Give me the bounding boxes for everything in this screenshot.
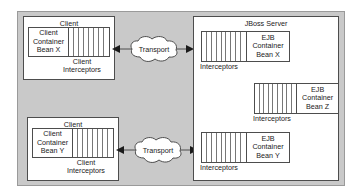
- client-interceptor-stripes-x: [69, 28, 109, 56]
- server-bean-z-line-3: Bean Z: [306, 103, 329, 111]
- server-interceptor-stripes-y: [202, 133, 246, 162]
- server-bean-y-line-3: Bean Y: [256, 152, 279, 160]
- client-bean-y-line-3: Bean Y: [41, 147, 64, 155]
- server-stack-bean-z: EJB Container Bean Z: [254, 83, 339, 114]
- client-bean-x-line-3: Bean X: [37, 46, 61, 54]
- client-interceptors-label-y-line-2: Interceptors: [57, 167, 115, 175]
- client-container-bean-y: Client Container Bean Y: [33, 129, 73, 157]
- client-interceptors-label-y: Client Interceptors: [57, 159, 115, 176]
- server-interceptor-stripes-x: [202, 32, 246, 61]
- transport-cloud-x: Transport: [128, 35, 180, 63]
- server-stack-bean-y: EJB Container Bean Y: [201, 132, 290, 163]
- arrowhead-left-x: [112, 45, 120, 53]
- server-interceptors-label-x: Interceptors: [200, 63, 238, 71]
- diagram-canvas: Client Client Container Bean X Client In…: [0, 0, 356, 196]
- client-stack-x: Client Container Bean X: [28, 27, 110, 57]
- client-interceptor-stripes-y: [73, 129, 113, 157]
- client-interceptors-label-x-line-2: Interceptors: [53, 66, 111, 74]
- client-interceptors-label-x: Client Interceptors: [53, 58, 111, 75]
- arrowhead-left-y: [116, 146, 124, 154]
- server-container-bean-z: EJB Container Bean Z: [296, 84, 338, 113]
- server-bean-x-line-3: Bean X: [256, 51, 280, 59]
- client-container-bean-x: Client Container Bean X: [29, 28, 69, 56]
- server-interceptor-stripes-z: [255, 84, 296, 113]
- transport-label-y: Transport: [132, 146, 184, 155]
- transport-cloud-y: Transport: [132, 136, 184, 164]
- client-stack-y: Client Container Bean Y: [32, 128, 114, 158]
- jboss-server-title: JBoss Server: [194, 20, 338, 28]
- server-container-bean-x: EJB Container Bean X: [246, 32, 289, 61]
- server-interceptors-label-y: Interceptors: [200, 164, 238, 172]
- server-interceptors-label-z: Interceptors: [253, 115, 291, 123]
- transport-label-x: Transport: [128, 45, 180, 54]
- server-container-bean-y: EJB Container Bean Y: [246, 133, 289, 162]
- server-stack-bean-x: EJB Container Bean X: [201, 31, 290, 62]
